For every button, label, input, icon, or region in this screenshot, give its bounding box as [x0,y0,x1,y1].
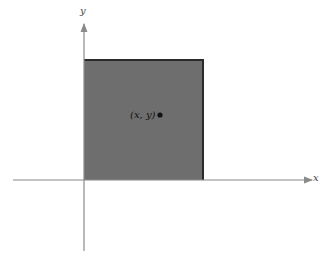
point-label: (x, y) [130,109,155,120]
point-marker [157,112,162,117]
shaded-square [84,60,203,180]
x-axis-label: x [313,172,319,183]
y-axis-label: y [80,5,86,16]
diagram-canvas [0,0,324,266]
